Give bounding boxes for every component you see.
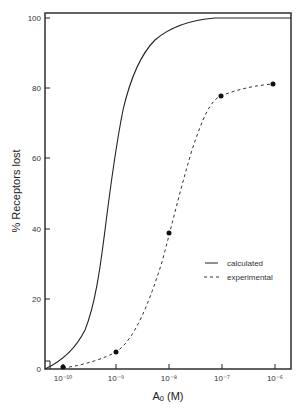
data-point bbox=[271, 82, 276, 87]
y-tick-40: 40 bbox=[32, 225, 41, 234]
plot-frame bbox=[45, 13, 291, 369]
x-tick-1e-6: 10⁻⁶ bbox=[267, 374, 283, 383]
x-tick-1e-9: 10⁻⁹ bbox=[108, 374, 124, 383]
calculated-curve bbox=[45, 18, 291, 369]
data-point bbox=[219, 94, 224, 99]
y-axis-label: % Receptors lost bbox=[10, 149, 22, 232]
x-tick-1e-8: 10⁻⁸ bbox=[161, 374, 177, 383]
experimental-curve bbox=[63, 84, 273, 368]
experimental-points bbox=[61, 82, 276, 370]
data-point bbox=[61, 365, 66, 370]
y-tick-20: 20 bbox=[32, 295, 41, 304]
x-axis bbox=[63, 364, 275, 369]
legend-experimental: experimental bbox=[227, 273, 273, 282]
y-tick-60: 60 bbox=[32, 154, 41, 163]
y-tick-0: 0 bbox=[37, 365, 42, 374]
y-tick-100: 100 bbox=[28, 14, 42, 23]
y-axis bbox=[45, 18, 50, 299]
data-point bbox=[114, 350, 119, 355]
y-tick-labels: 100 80 60 40 20 0 bbox=[28, 14, 42, 374]
legend-calculated: calculated bbox=[227, 259, 263, 268]
legend: calculated experimental bbox=[204, 259, 273, 282]
data-point bbox=[167, 231, 172, 236]
x-axis-label: Aₒ (M) bbox=[152, 390, 183, 402]
x-tick-labels: 10⁻¹⁰ 10⁻⁹ 10⁻⁸ 10⁻⁷ 10⁻⁶ bbox=[54, 374, 283, 383]
chart: 100 80 60 40 20 0 10⁻¹⁰ 10⁻⁹ 10⁻⁸ 10⁻⁷ 1… bbox=[0, 0, 304, 409]
x-tick-1e-10: 10⁻¹⁰ bbox=[54, 374, 73, 383]
x-tick-1e-7: 10⁻⁷ bbox=[214, 374, 230, 383]
y-tick-80: 80 bbox=[32, 84, 41, 93]
